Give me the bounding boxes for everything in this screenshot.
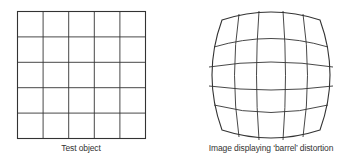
diagram-canvas: [0, 0, 352, 162]
barrel-distortion-grid: [209, 11, 333, 140]
test-object-grid: [18, 12, 146, 139]
barrel-distortion-caption: Image displaying ‘barrel’ distortion: [209, 143, 334, 153]
test-object-caption: Test object: [61, 143, 101, 153]
